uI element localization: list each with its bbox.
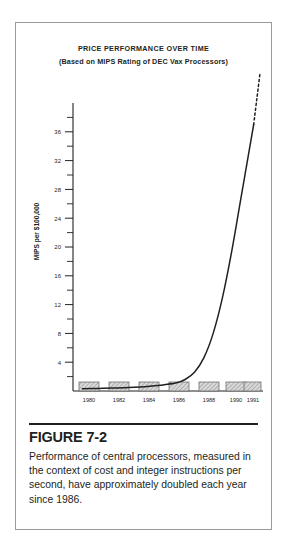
x-tick-label: 1986 (173, 397, 185, 403)
y-tick-label: 4 (58, 360, 62, 366)
x-tick-label: 1980 (83, 397, 95, 403)
x-axis-tick-labels: 1980 1982 1984 1986 1988 1990 1991 (83, 397, 259, 403)
y-tick-label: 8 (58, 331, 62, 337)
y-tick-label: 12 (54, 302, 61, 308)
y-tick-label: 32 (54, 158, 61, 164)
y-tick-label: 24 (54, 216, 61, 222)
y-axis-tick-labels: 4 8 12 16 20 24 28 32 36 (54, 129, 61, 365)
figure-caption-text: Performance of central processors, measu… (29, 450, 253, 507)
data-curve-projection (254, 74, 260, 124)
y-tick-label: 36 (54, 129, 61, 135)
x-tick-label: 1982 (113, 397, 125, 403)
y-tick-label: 20 (54, 244, 61, 250)
x-tick-label: 1988 (203, 397, 215, 403)
x-tick-label: 1984 (143, 397, 155, 403)
x-tick-label: 1991 (247, 397, 259, 403)
caption-divider (29, 423, 258, 425)
x-tick-label: 1990 (230, 397, 242, 403)
caption-block: FIGURE 7-2 Performance of central proces… (16, 415, 271, 529)
figure-frame: PRICE PERFORMANCE OVER TIME (Based on MI… (15, 22, 272, 530)
data-curve (82, 125, 253, 389)
y-tick-label: 28 (54, 187, 61, 193)
plot-area: 4 8 12 16 20 24 28 32 36 (16, 23, 271, 415)
chart-block: PRICE PERFORMANCE OVER TIME (Based on MI… (16, 23, 271, 415)
y-tick-label: 16 (54, 273, 61, 279)
y-axis-major-ticks (65, 132, 73, 362)
figure-heading: FIGURE 7-2 (29, 429, 107, 445)
